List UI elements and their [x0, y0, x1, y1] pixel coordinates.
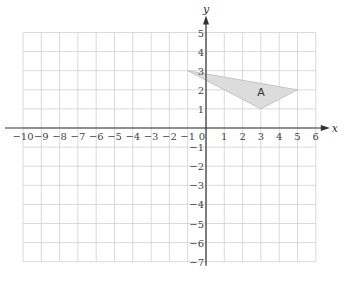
y-tick-label: 2 [198, 85, 204, 96]
y-axis-label: y [202, 3, 210, 16]
x-tick-label: −6 [89, 131, 104, 142]
x-tick-label: −2 [162, 131, 177, 142]
x-tick-label: −1 [180, 131, 195, 142]
x-tick-label: −3 [144, 131, 159, 142]
y-tick-label: −5 [189, 219, 204, 230]
x-axis-label: x [332, 122, 339, 135]
y-tick-label: −4 [189, 199, 204, 210]
x-tick-label: 0 [199, 131, 205, 142]
y-tick-label: −7 [189, 257, 204, 268]
shape-label-a: A [257, 86, 265, 99]
x-tick-label: −9 [34, 131, 49, 142]
grid-lines [23, 33, 316, 262]
y-tick-label: 3 [198, 66, 204, 77]
x-tick-label: −7 [71, 131, 86, 142]
x-tick-label: 2 [239, 131, 245, 142]
x-tick-label: −10 [12, 131, 33, 142]
x-tick-label: −8 [52, 131, 67, 142]
x-tick-label: 6 [313, 131, 319, 142]
y-tick-label: 4 [198, 47, 204, 58]
x-tick-label: 5 [294, 131, 300, 142]
x-tick-label: 1 [221, 131, 227, 142]
y-tick-label: −1 [189, 142, 204, 153]
x-axis-arrow-icon [321, 125, 330, 131]
coordinate-grid: A xy −10−9−8−7−6−5−4−3−2−1012345654321−1… [0, 0, 348, 284]
x-tick-label: 4 [276, 131, 282, 142]
y-tick-label: −6 [189, 238, 204, 249]
y-tick-label: −2 [189, 161, 204, 172]
y-axis-arrow-icon [203, 16, 209, 25]
y-tick-label: −3 [189, 180, 204, 191]
tick-labels: −10−9−8−7−6−5−4−3−2−1012345654321−1−2−3−… [12, 28, 319, 268]
x-tick-label: −4 [125, 131, 140, 142]
y-tick-label: 1 [198, 104, 204, 115]
y-tick-label: 5 [198, 28, 204, 39]
x-tick-label: −5 [107, 131, 122, 142]
x-tick-label: 3 [258, 131, 264, 142]
